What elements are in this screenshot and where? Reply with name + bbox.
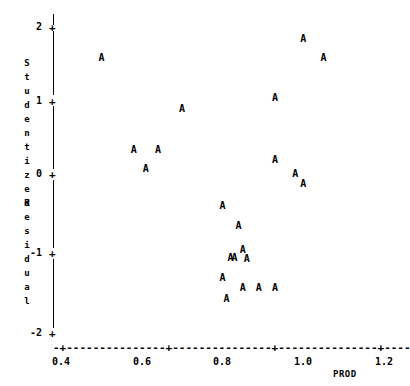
data-point: A	[143, 164, 149, 174]
data-point: A	[223, 294, 229, 304]
data-point: A	[272, 93, 278, 103]
data-point: A	[300, 179, 306, 189]
data-point: A	[272, 155, 278, 165]
data-marker-layer: AAAAAAAAAAAAAAAAAAAAAA	[0, 0, 410, 386]
data-point: A	[131, 145, 137, 155]
scatter-plot: + + + + + 2 1 0 -1 -2 Studentized Residu…	[0, 0, 410, 386]
data-point: A	[300, 34, 306, 44]
data-point: A	[272, 283, 278, 293]
data-point: A	[240, 283, 246, 293]
data-point: A	[232, 253, 238, 263]
data-point: A	[244, 254, 250, 264]
data-point: A	[219, 201, 225, 211]
data-point: A	[256, 283, 262, 293]
data-point: A	[98, 53, 104, 63]
data-point: A	[236, 221, 242, 231]
data-point: A	[219, 273, 225, 283]
data-point: A	[155, 145, 161, 155]
data-point: A	[320, 53, 326, 63]
data-point: A	[179, 104, 185, 114]
data-point: A	[292, 169, 298, 179]
